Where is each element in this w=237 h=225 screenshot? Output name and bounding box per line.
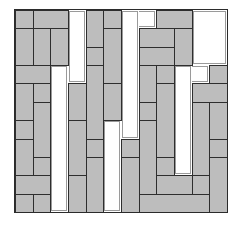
tile: [33, 10, 69, 29]
tile: [33, 28, 52, 66]
tile: [86, 157, 105, 213]
tile: [86, 65, 105, 139]
tile: [15, 120, 34, 139]
tile: [192, 102, 211, 176]
puzzle-board: [15, 10, 227, 212]
tile: [15, 139, 34, 177]
tile: [209, 157, 228, 213]
tile: [103, 83, 122, 121]
tile: [86, 47, 105, 66]
tile: [139, 65, 158, 103]
tile: [33, 157, 52, 176]
tile: [15, 65, 51, 84]
tile: [50, 28, 69, 66]
tile: [192, 83, 228, 102]
channel-right: [192, 10, 227, 65]
tile: [209, 139, 228, 158]
tile: [15, 10, 34, 29]
channel-middle: [103, 120, 121, 212]
tile: [68, 120, 87, 176]
tile: [86, 139, 105, 158]
tile: [121, 157, 140, 213]
tile: [139, 194, 211, 213]
tile: [68, 83, 87, 121]
tile: [103, 10, 122, 29]
tile: [15, 28, 34, 66]
tile: [121, 139, 140, 158]
tile: [139, 47, 175, 66]
tile: [33, 102, 52, 158]
channel-right: [174, 65, 192, 175]
tile: [156, 65, 175, 84]
channel-middle: [121, 10, 139, 139]
tile: [15, 194, 34, 213]
tile: [139, 28, 175, 47]
tile: [192, 175, 211, 194]
tile: [139, 120, 158, 194]
channel-left: [50, 65, 68, 212]
tile: [156, 157, 175, 176]
tile: [33, 194, 52, 213]
tile: [103, 28, 122, 84]
tile: [33, 83, 52, 102]
channel-left: [68, 10, 86, 83]
tile: [15, 83, 34, 121]
tile: [156, 175, 192, 194]
tile: [68, 175, 87, 213]
tile: [209, 102, 228, 140]
tile: [156, 10, 192, 29]
tile: [156, 83, 175, 157]
tile: [209, 65, 228, 84]
tile: [174, 28, 193, 66]
tile: [86, 10, 105, 48]
tile: [15, 175, 51, 194]
tile: [139, 102, 158, 121]
